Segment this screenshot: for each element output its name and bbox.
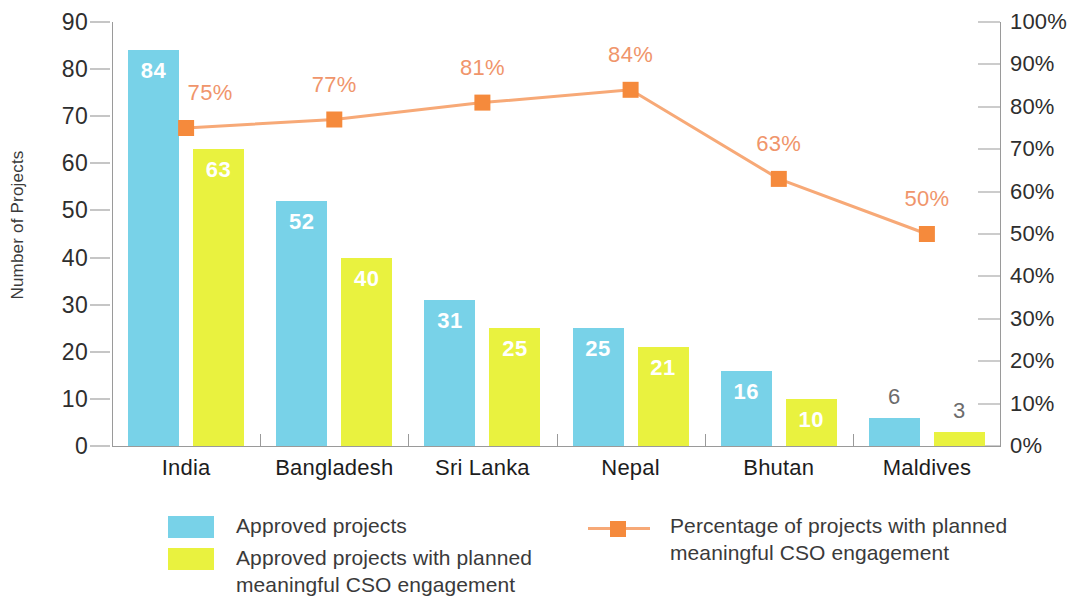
bar-approved-projects: 84 [128,50,179,446]
bar-value-label: 6 [869,384,920,410]
left-axis-tick-mark [90,351,110,352]
category-label-bangladesh: Bangladesh [275,455,393,481]
percentage-value-label: 84% [608,42,653,68]
category-label-india: India [162,455,211,481]
chart-legend: Approved projectsApproved projects with … [0,505,1068,592]
left-axis-tick-mark [90,210,110,211]
left-axis-tick-label: 70 [12,103,88,130]
left-axis-tick-label: 40 [12,244,88,271]
bar-approved-projects: 16 [721,371,772,446]
bar-approved-with-cso: 10 [786,399,837,446]
bar-value-label: 16 [721,379,772,405]
bar-approved-with-cso: 63 [193,149,244,446]
left-axis-tick-mark [90,69,110,70]
category-separator-tick [853,434,854,446]
bar-value-label: 21 [638,355,689,381]
right-axis-tick-label: 80% [1010,94,1068,120]
left-axis-tick-label: 20 [12,338,88,365]
bar-value-label: 25 [573,336,624,362]
legend-item-2: Approved projects with planned meaningfu… [168,545,532,599]
category-separator-tick [705,434,706,446]
bottom-axis-line [112,446,1001,447]
bar-value-label: 25 [489,336,540,362]
right-axis-tick-label: 20% [1010,348,1068,374]
plot-area: 8463524031252521161063 [112,0,1001,446]
legend-label: Approved projects [236,513,407,540]
category-label-maldives: Maldives [883,455,971,481]
right-axis-tick-label: 100% [1010,9,1068,35]
left-axis-tick-mark [90,257,110,258]
bar-value-label: 52 [276,209,327,235]
bar-approved-projects: 6 [869,418,920,446]
left-axis-tick-label: 50 [12,197,88,224]
bar-approved-with-cso: 21 [638,347,689,446]
left-axis-tick-mark [90,304,110,305]
right-axis-tick-label: 60% [1010,179,1068,205]
legend-line-marker-icon [588,517,650,539]
bar-approved-projects: 25 [573,328,624,446]
left-axis-tick-mark [90,446,110,447]
legend-square-marker-icon [610,521,626,537]
percentage-value-label: 50% [904,186,949,212]
right-axis-tick-label: 30% [1010,306,1068,332]
percentage-value-label: 75% [188,80,233,106]
bar-value-label: 63 [193,157,244,183]
legend-label: Percentage of projects with planned mean… [670,513,1007,567]
legend-item-1: Approved projects [168,513,407,540]
bar-approved-projects: 31 [424,300,475,446]
bar-value-label: 40 [341,266,392,292]
category-separator-tick [408,434,409,446]
left-axis-tick-label: 60 [12,150,88,177]
bar-approved-with-cso: 3 [934,432,985,446]
left-axis-tick-mark [90,22,110,23]
bar-value-label: 31 [424,308,475,334]
right-axis-tick-label: 50% [1010,221,1068,247]
percentage-value-label: 77% [312,72,357,98]
legend-item-3: Percentage of projects with planned mean… [588,513,1007,567]
left-axis-tick-label: 30 [12,291,88,318]
legend-color-swatch [168,548,214,570]
bar-value-label: 3 [934,398,985,424]
left-axis-tick-mark [90,163,110,164]
legend-color-swatch [168,516,214,538]
right-axis-tick-label: 70% [1010,136,1068,162]
bar-value-label: 10 [786,407,837,433]
category-separator-tick [260,434,261,446]
category-separator-tick [557,434,558,446]
left-axis-tick-label: 0 [12,433,88,460]
left-axis-tick-label: 10 [12,385,88,412]
left-axis-tick-label: 90 [12,9,88,36]
left-axis-tick-label: 80 [12,56,88,83]
bar-approved-with-cso: 25 [489,328,540,446]
right-axis-tick-label: 10% [1010,391,1068,417]
left-axis-tick-mark [90,116,110,117]
category-label-nepal: Nepal [601,455,659,481]
bar-approved-with-cso: 40 [341,258,392,446]
right-axis-tick-label: 90% [1010,51,1068,77]
category-label-sri-lanka: Sri Lanka [435,455,530,481]
right-axis-tick-label: 0% [1010,433,1068,459]
right-axis-tick-label: 40% [1010,263,1068,289]
legend-label: Approved projects with planned meaningfu… [236,545,532,599]
bar-approved-projects: 52 [276,201,327,446]
percentage-value-label: 63% [756,131,801,157]
bar-value-label: 84 [128,58,179,84]
category-label-bhutan: Bhutan [743,455,814,481]
percentage-value-label: 81% [460,55,505,81]
left-axis-tick-mark [90,398,110,399]
